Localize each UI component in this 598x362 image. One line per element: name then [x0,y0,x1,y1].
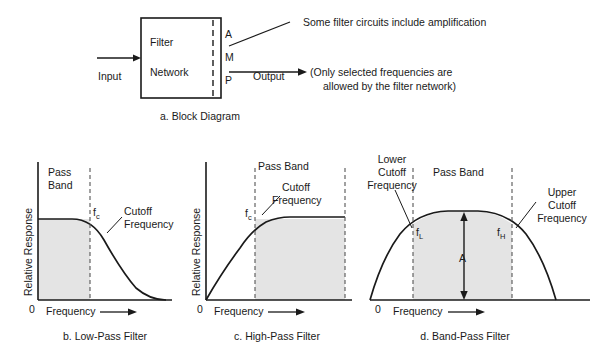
band-pass-lower-cutoff-line3: Frequency [358,179,426,191]
band-pass-fh-symbol: fH [497,226,505,243]
band-pass-amplitude-label: A [459,252,466,264]
band-pass-fl-symbol: fL [416,226,423,243]
band-pass-passband-label: Pass Band [433,166,484,178]
band-pass-frequency-arrowhead [476,308,485,315]
band-pass-origin-label: 0 [375,303,381,315]
filter-figure: Filter Network A M P Input Output Some f… [0,0,598,362]
caption-band-pass: d. Band-Pass Filter [385,330,545,342]
band-pass-upper-cutoff-line2: Cutoff [533,199,591,211]
band-pass-upper-cutoff-line1: Upper [533,186,591,198]
band-pass-graphics [0,0,598,362]
band-pass-x-axis-label: Frequency [393,305,443,317]
band-pass-upper-cutoff-line3: Frequency [527,212,597,224]
band-pass-lower-cutoff-leader-line [395,190,412,228]
band-pass-lower-cutoff-line2: Cutoff [364,166,420,178]
band-pass-lower-cutoff-line1: Lower [364,153,420,165]
